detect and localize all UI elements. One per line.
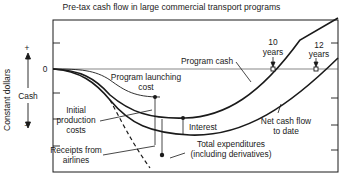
receipts-leader bbox=[103, 146, 155, 155]
program-cash-label: Program cash bbox=[181, 56, 233, 66]
y-axis-label: Constant dollars bbox=[2, 69, 12, 131]
plus-sign: + bbox=[25, 43, 30, 53]
zero-label: 0 bbox=[43, 64, 48, 74]
program-cash-leader bbox=[236, 62, 251, 82]
receipts-label-1: Receipts from bbox=[50, 145, 102, 155]
vertical-guides bbox=[155, 97, 183, 155]
ten-years-num: 10 bbox=[268, 37, 278, 47]
ten-years-unit: years bbox=[263, 47, 283, 57]
twelve-years-unit: years bbox=[309, 49, 329, 59]
initial-production-label-2: production bbox=[56, 115, 95, 125]
total-expenditures-label-1: Total expenditures bbox=[197, 139, 265, 149]
net-cash-flow-label-2: to date bbox=[273, 126, 299, 136]
cash-label: Cash bbox=[18, 91, 38, 101]
receipts-label-2: airlines bbox=[63, 155, 90, 165]
launching-cost-label-2: cost bbox=[138, 82, 154, 92]
cash-flow-chart: Constant dollars + − Cash 0 1 bbox=[0, 0, 343, 181]
interest-label: Interest bbox=[189, 122, 218, 132]
initial-production-label-3: costs bbox=[66, 125, 86, 135]
launching-cost-label-1: Program launching bbox=[111, 72, 182, 82]
net-cash-flow-label-1: Net cash flow bbox=[261, 116, 312, 126]
program-cash-curve bbox=[53, 18, 338, 118]
total-expenditures-line bbox=[110, 100, 150, 168]
initial-production-label-1: Initial bbox=[66, 105, 86, 115]
total-expenditures-leader bbox=[170, 153, 185, 158]
initial-production-leader bbox=[100, 110, 152, 121]
total-expenditures-label-2: (including derivatives) bbox=[191, 149, 272, 159]
left-ticks bbox=[53, 43, 60, 146]
marker-dots bbox=[153, 95, 185, 157]
